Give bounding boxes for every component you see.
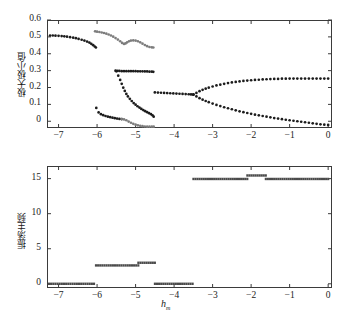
data-point — [86, 40, 89, 43]
data-point — [181, 93, 184, 96]
data-point — [269, 78, 272, 81]
data-point — [110, 34, 113, 37]
data-point — [246, 79, 249, 82]
data-point — [123, 90, 126, 93]
data-point — [205, 178, 207, 180]
data-point — [192, 178, 194, 180]
data-point — [238, 110, 241, 113]
data-point — [323, 77, 326, 80]
data-point — [223, 178, 225, 180]
data-point — [132, 122, 135, 125]
data-point — [123, 118, 126, 121]
xtick-label: −4 — [159, 130, 189, 140]
data-point — [104, 115, 107, 118]
data-point — [296, 120, 299, 123]
data-point — [146, 262, 148, 264]
data-point — [115, 70, 118, 73]
data-point — [192, 283, 194, 285]
data-point — [118, 118, 121, 121]
data-point — [211, 85, 214, 88]
data-point — [143, 70, 146, 73]
data-point — [153, 91, 156, 94]
data-point — [137, 124, 140, 127]
data-point — [281, 178, 283, 180]
data-point — [244, 178, 246, 180]
data-point — [246, 112, 249, 115]
data-point — [203, 178, 205, 180]
data-point — [108, 264, 110, 266]
data-point — [152, 115, 155, 118]
data-point — [315, 178, 317, 180]
data-point — [132, 39, 135, 42]
data-point — [130, 70, 133, 73]
data-point — [112, 35, 115, 38]
data-point — [95, 46, 98, 49]
data-point — [269, 178, 271, 180]
ytick-label: 0 — [1, 114, 41, 124]
data-point — [120, 82, 123, 85]
data-point — [207, 101, 210, 104]
data-point — [323, 123, 326, 126]
data-point — [96, 30, 99, 33]
data-point — [201, 178, 203, 180]
data-point — [97, 111, 100, 114]
data-point — [252, 174, 254, 176]
data-point — [240, 178, 242, 180]
data-point — [248, 174, 250, 176]
data-point — [177, 283, 179, 285]
data-point — [236, 178, 238, 180]
data-point — [116, 264, 118, 266]
data-point — [198, 97, 201, 100]
data-point — [93, 283, 95, 285]
data-point — [197, 178, 199, 180]
data-point — [221, 178, 223, 180]
data-point — [54, 283, 56, 285]
data-point — [169, 283, 171, 285]
data-point — [238, 178, 240, 180]
data-point — [223, 82, 226, 85]
data-point — [98, 31, 101, 34]
data-point — [275, 178, 277, 180]
data-point — [152, 46, 155, 49]
xaxis-label-subscript: m — [166, 305, 170, 311]
xtick-label: −3 — [198, 290, 228, 300]
data-point — [120, 70, 123, 73]
data-point — [51, 34, 54, 37]
data-point — [311, 178, 313, 180]
data-point — [133, 264, 135, 266]
data-point — [234, 178, 236, 180]
data-point — [80, 283, 82, 285]
data-point — [87, 283, 89, 285]
data-point — [120, 264, 122, 266]
data-point — [189, 283, 191, 285]
data-point — [116, 117, 119, 120]
ytick-label: 0.2 — [1, 81, 41, 91]
data-point — [100, 113, 103, 116]
data-point — [139, 124, 142, 127]
data-point — [120, 118, 123, 121]
data-point — [69, 283, 71, 285]
data-point — [231, 81, 234, 84]
data-point — [171, 283, 173, 285]
data-point — [134, 123, 137, 126]
data-point — [154, 262, 156, 264]
data-point — [119, 79, 122, 82]
data-point — [315, 77, 318, 80]
data-point — [259, 174, 261, 176]
data-point — [160, 91, 163, 94]
data-point — [143, 125, 146, 128]
data-point — [175, 92, 178, 95]
data-point — [254, 79, 257, 82]
data-point — [76, 283, 78, 285]
data-point — [308, 77, 311, 80]
data-point — [288, 178, 290, 180]
data-point — [269, 116, 272, 119]
xtick-label: −7 — [44, 290, 74, 300]
data-point — [281, 77, 284, 80]
data-point — [146, 70, 149, 73]
data-point — [169, 92, 172, 95]
data-point — [300, 120, 303, 123]
data-point — [129, 264, 131, 266]
data-point — [130, 121, 133, 124]
data-point — [118, 264, 120, 266]
